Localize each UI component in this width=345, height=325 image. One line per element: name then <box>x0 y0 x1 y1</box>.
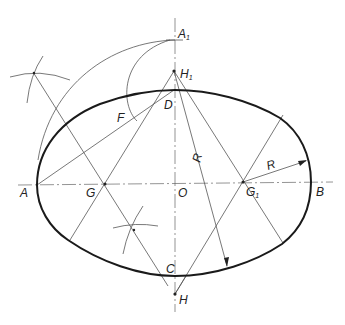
label-c: C <box>166 262 175 276</box>
label-f: F <box>117 111 125 125</box>
point-g <box>104 183 107 186</box>
arrowhead-long <box>224 257 229 267</box>
label-d: D <box>164 98 173 112</box>
point-bisector-lower <box>133 229 135 231</box>
label-a1: A1 <box>177 27 190 41</box>
construction-diagram: A1 H1 D F A G O G1 B C H R R <box>0 0 345 325</box>
label-h1: H1 <box>180 67 193 81</box>
label-b: B <box>316 185 324 199</box>
label-r-long: R <box>189 151 205 163</box>
point-g1 <box>242 181 245 184</box>
label-g: G <box>86 186 95 200</box>
point-h1 <box>172 69 175 72</box>
horizontal-axis <box>18 182 333 185</box>
egg-outline <box>37 90 311 276</box>
line-h-c <box>175 276 186 294</box>
arrowhead-short <box>298 160 307 166</box>
point-bisector-upper <box>33 72 35 74</box>
bisector-arc-upper-2 <box>27 56 43 103</box>
point-h <box>173 292 176 295</box>
bisector-arc-lower-1 <box>113 224 158 228</box>
radius-long <box>174 71 227 266</box>
label-g1: G1 <box>246 185 259 199</box>
label-o: O <box>178 186 187 200</box>
bisector-arc-upper-1 <box>10 73 70 80</box>
label-r-short: R <box>265 157 278 173</box>
label-a: A <box>19 186 28 200</box>
label-h: H <box>179 293 188 307</box>
arc-a1-to-a <box>38 40 175 160</box>
